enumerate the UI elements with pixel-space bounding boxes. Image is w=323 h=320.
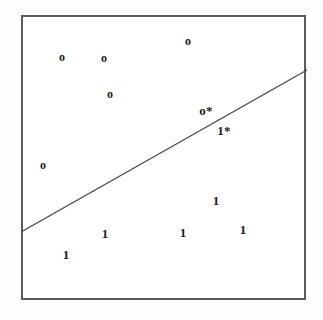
- scatter-plot-figure: o o o o o o* 1* 1 1 1 1 1: [0, 0, 323, 320]
- data-point-o-star: o*: [199, 104, 212, 117]
- data-point-one-star: 1*: [217, 124, 230, 137]
- data-point-o-5: o: [40, 159, 46, 171]
- data-point-o-1: o: [59, 51, 65, 63]
- data-point-one-3: 1: [180, 226, 187, 239]
- data-point-one-4: 1: [213, 194, 220, 207]
- data-point-o-4: o: [185, 35, 191, 47]
- data-point-one-2: 1: [63, 248, 70, 261]
- data-point-one-5: 1: [240, 223, 247, 236]
- data-point-o-2: o: [101, 52, 107, 64]
- data-point-o-3: o: [107, 88, 113, 100]
- data-point-one-1: 1: [102, 227, 109, 240]
